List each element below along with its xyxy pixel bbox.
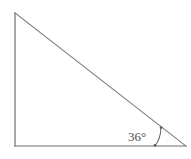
geometry-figure: 36° [0,0,191,159]
angle-arc-start-dot [154,144,157,147]
triangle-hypotenuse [15,13,186,146]
triangle-diagram-svg: 36° [0,0,191,159]
angle-arc-marker [155,128,161,146]
angle-arc-end-dot [160,126,163,129]
angle-label-36-degrees: 36° [128,129,146,144]
